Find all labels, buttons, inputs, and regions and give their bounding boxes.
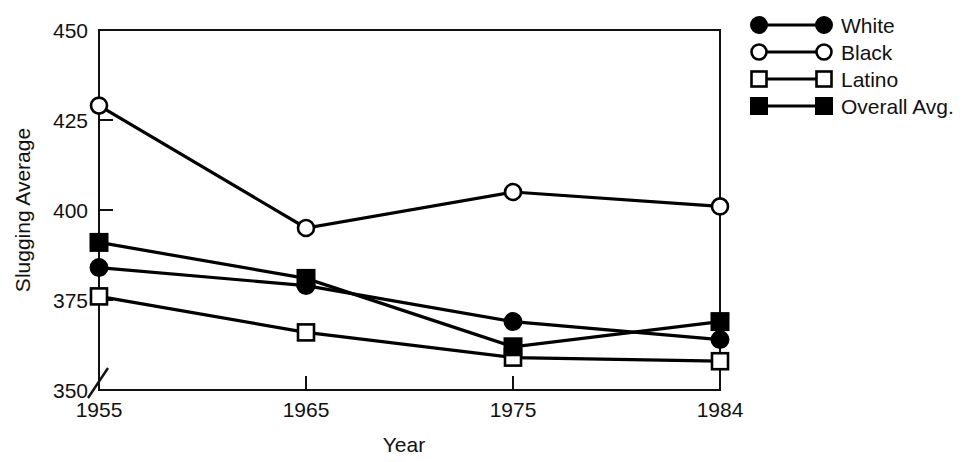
filled-square-icon xyxy=(816,98,832,114)
chart-legend: White Black Latino Overall Avg. xyxy=(751,14,954,118)
series-markers-overall-avg xyxy=(91,234,729,355)
legend-item-white[interactable]: White xyxy=(751,14,895,37)
legend-item-black[interactable]: Black xyxy=(752,41,893,64)
y-tick-label-375: 375 xyxy=(53,289,88,312)
x-axis-tick-labels: 1955 1965 1975 1984 xyxy=(76,398,744,421)
chart-svg: 450 425 400 375 350 1955 1965 1975 1984 … xyxy=(0,0,963,462)
y-axis-title: Slugging Average xyxy=(11,128,34,292)
legend-label-overall-avg: Overall Avg. xyxy=(841,95,954,118)
x-tick-label-1955: 1955 xyxy=(76,398,123,421)
series-line-white xyxy=(99,268,720,340)
x-axis-ticks xyxy=(306,376,513,390)
data-point-open-square xyxy=(298,324,314,340)
series-markers-latino xyxy=(91,288,728,369)
open-square-icon xyxy=(752,72,767,87)
data-point-open-square xyxy=(712,353,728,369)
filled-square-icon xyxy=(751,98,767,114)
series-line-latino xyxy=(99,296,720,361)
data-point-filled-circle xyxy=(712,331,729,348)
data-point-filled-square xyxy=(712,313,729,330)
data-point-open-circle xyxy=(298,220,314,236)
y-axis-tick-labels: 450 425 400 375 350 xyxy=(53,19,88,402)
data-point-filled-square xyxy=(91,234,108,251)
chart-figure: 450 425 400 375 350 1955 1965 1975 1984 … xyxy=(0,0,963,462)
x-tick-label-1965: 1965 xyxy=(283,398,330,421)
data-point-open-circle xyxy=(505,184,521,200)
filled-circle-icon xyxy=(751,17,767,33)
legend-label-white: White xyxy=(841,14,895,37)
open-square-icon xyxy=(817,72,832,87)
data-point-open-square xyxy=(91,288,107,304)
legend-label-latino: Latino xyxy=(841,68,898,91)
series-line-black xyxy=(99,106,720,228)
y-tick-label-400: 400 xyxy=(53,199,88,222)
x-tick-label-1984: 1984 xyxy=(697,398,744,421)
data-point-open-circle xyxy=(712,198,728,214)
open-circle-icon xyxy=(752,45,767,60)
open-circle-icon xyxy=(817,45,832,60)
data-point-filled-circle xyxy=(505,313,522,330)
data-point-open-circle xyxy=(91,98,107,114)
series-markers-black xyxy=(91,98,728,236)
filled-circle-icon xyxy=(816,17,832,33)
y-tick-label-450: 450 xyxy=(53,19,88,42)
legend-item-latino[interactable]: Latino xyxy=(752,68,899,91)
legend-label-black: Black xyxy=(841,41,893,64)
y-tick-label-425: 425 xyxy=(53,109,88,132)
x-axis-title: Year xyxy=(383,433,425,456)
data-point-filled-square xyxy=(505,338,522,355)
data-point-filled-square xyxy=(298,270,315,287)
series-lines xyxy=(99,106,720,362)
x-tick-label-1975: 1975 xyxy=(490,398,537,421)
legend-item-overall-avg[interactable]: Overall Avg. xyxy=(751,95,954,118)
data-point-filled-circle xyxy=(91,259,108,276)
